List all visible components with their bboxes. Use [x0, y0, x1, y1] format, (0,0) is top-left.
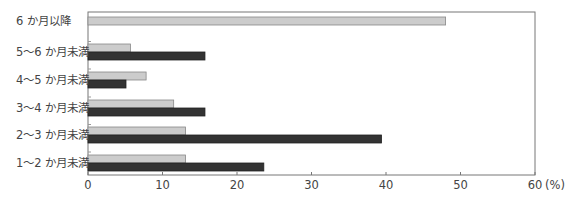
bar-series-light	[88, 127, 186, 135]
x-tick-label: 20	[230, 178, 245, 192]
x-axis-unit-label: (%)	[545, 178, 565, 192]
category-label: 3〜4 か月未満	[16, 101, 89, 115]
bar-series-light	[88, 100, 174, 108]
x-tick-label: 10	[155, 178, 170, 192]
bar-series-light	[88, 17, 446, 25]
x-tick-label: 60	[528, 178, 543, 192]
bar-series-light	[88, 44, 130, 52]
bar-series-light	[88, 155, 186, 163]
category-label: 4〜5 か月未満	[16, 73, 89, 87]
plot-frame	[88, 12, 535, 175]
category-label: 6 か月以降	[16, 14, 71, 28]
bar-series-dark	[88, 108, 205, 116]
bar-series-dark	[88, 135, 382, 143]
bar-series-dark	[88, 163, 264, 171]
x-tick-label: 0	[84, 178, 91, 192]
bar-series-light	[88, 72, 146, 80]
bar-series-dark	[88, 80, 126, 88]
category-label: 1〜2 か月未満	[16, 156, 89, 170]
x-tick-label: 50	[453, 178, 468, 192]
bar-series-dark	[88, 52, 205, 60]
x-tick-label: 40	[379, 178, 394, 192]
x-tick-label: 30	[304, 178, 319, 192]
category-label: 5〜6 か月未満	[16, 45, 89, 59]
bar-chart: 6 か月以降5〜6 か月未満4〜5 か月未満3〜4 か月未満2〜3 か月未満1〜…	[0, 0, 572, 205]
category-label: 2〜3 か月未満	[16, 128, 89, 142]
